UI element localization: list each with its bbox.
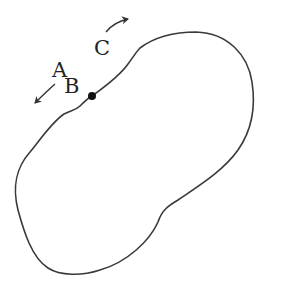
point-dot bbox=[88, 92, 96, 100]
arrow-c-icon bbox=[106, 19, 128, 32]
label-c: C bbox=[94, 36, 110, 60]
arrow-ab-icon bbox=[35, 84, 55, 103]
diagram-canvas: A B C bbox=[0, 0, 298, 291]
label-b: B bbox=[64, 74, 79, 98]
